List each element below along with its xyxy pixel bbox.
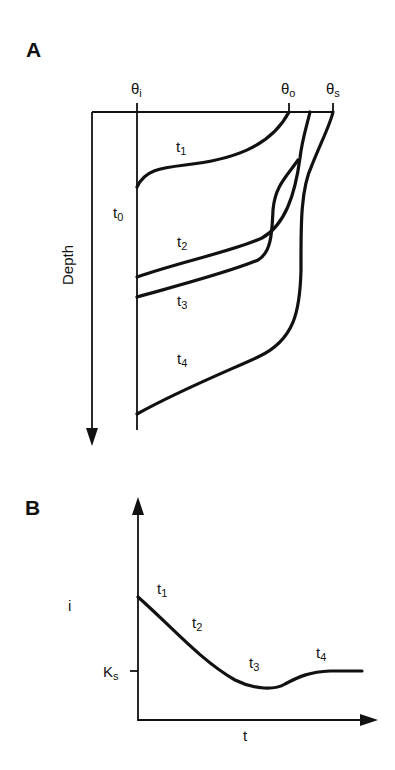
diagram-canvas: A θi θo θs t1 t0 t2 t3 t4 Depth B xyxy=(0,0,395,770)
curve-t1 xyxy=(137,112,289,187)
b-label-t1: t1 xyxy=(157,580,167,599)
theta-i-label: θi xyxy=(131,80,142,99)
label-t0: t0 xyxy=(113,204,123,223)
infiltration-curve xyxy=(138,597,362,688)
depth-arrow-icon xyxy=(86,428,98,446)
y-axis-arrow-icon xyxy=(132,497,144,515)
theta-o-label: θo xyxy=(281,80,295,99)
panel-b-label: B xyxy=(25,496,40,519)
label-t4: t4 xyxy=(177,350,187,369)
label-t3: t3 xyxy=(177,292,187,311)
x-axis-arrow-icon xyxy=(360,714,378,726)
panel-b: B i Ks t t1 t2 t3 t4 xyxy=(25,496,378,744)
b-label-t4: t4 xyxy=(316,644,326,663)
curve-t2 xyxy=(137,112,310,277)
y-axis-label: i xyxy=(68,597,71,614)
label-t2: t2 xyxy=(177,233,187,252)
panel-a: A θi θo θs t1 t0 t2 t3 t4 Depth xyxy=(26,38,340,446)
ks-label: Ks xyxy=(103,663,119,682)
panel-a-label: A xyxy=(26,38,41,61)
label-t1: t1 xyxy=(176,138,186,157)
theta-s-label: θs xyxy=(326,80,340,99)
b-label-t2: t2 xyxy=(192,614,202,633)
depth-label: Depth xyxy=(59,245,76,285)
x-axis-label: t xyxy=(243,727,248,744)
b-label-t3: t3 xyxy=(249,654,259,673)
curve-t4 xyxy=(137,112,333,414)
